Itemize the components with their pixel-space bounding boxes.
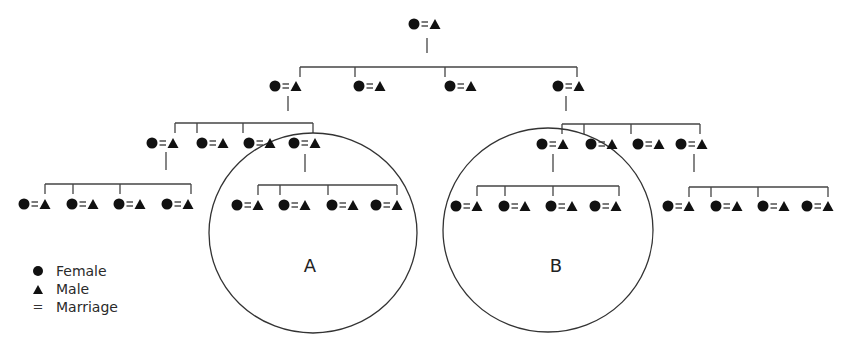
- kinship-diagram: [0, 0, 849, 358]
- couple-icon: [162, 199, 194, 210]
- couple-icon: [590, 201, 622, 212]
- circle-icon: [30, 266, 46, 276]
- equals-icon: =: [30, 298, 46, 316]
- couple-icon: [327, 200, 359, 211]
- couple-icon: [676, 139, 708, 150]
- couple-icon: [409, 19, 441, 30]
- couple-icon: [499, 201, 531, 212]
- connector-lines: [45, 38, 828, 197]
- circle-label-a: A: [304, 255, 316, 276]
- couple-icon: [758, 201, 790, 212]
- legend-label: Marriage: [56, 298, 118, 316]
- circle-group-a: [209, 133, 417, 333]
- legend-item-marriage: = Marriage: [30, 298, 118, 316]
- circle-label-b: B: [550, 255, 562, 276]
- couple-icon: [371, 200, 403, 211]
- couple-icon: [537, 139, 569, 150]
- couple-icon: [279, 200, 311, 211]
- couple-icon: [586, 139, 618, 150]
- couple-icon: [232, 200, 264, 211]
- triangle-icon: [30, 285, 46, 294]
- legend: Female Male = Marriage: [30, 262, 118, 316]
- couple-icon: [19, 199, 51, 210]
- couple-icon: [445, 81, 477, 92]
- couple-icon: [711, 201, 743, 212]
- legend-label: Female: [56, 262, 107, 280]
- couple-icon: [663, 201, 695, 212]
- circle-group-b: [443, 128, 653, 332]
- legend-item-female: Female: [30, 262, 118, 280]
- couple-icon: [197, 138, 229, 149]
- couple-icon: [147, 138, 179, 149]
- couple-icon: [270, 81, 302, 92]
- couple-icon: [633, 139, 665, 150]
- couple-icon: [114, 199, 146, 210]
- couple-icon: [546, 201, 578, 212]
- couple-icon: [802, 201, 834, 212]
- legend-item-male: Male: [30, 280, 118, 298]
- couple-icon: [553, 81, 585, 92]
- couple-icon: [451, 201, 483, 212]
- couple-icon: [289, 138, 321, 149]
- couple-icon: [67, 199, 99, 210]
- couples: [19, 19, 834, 212]
- couple-icon: [354, 81, 386, 92]
- legend-label: Male: [56, 280, 89, 298]
